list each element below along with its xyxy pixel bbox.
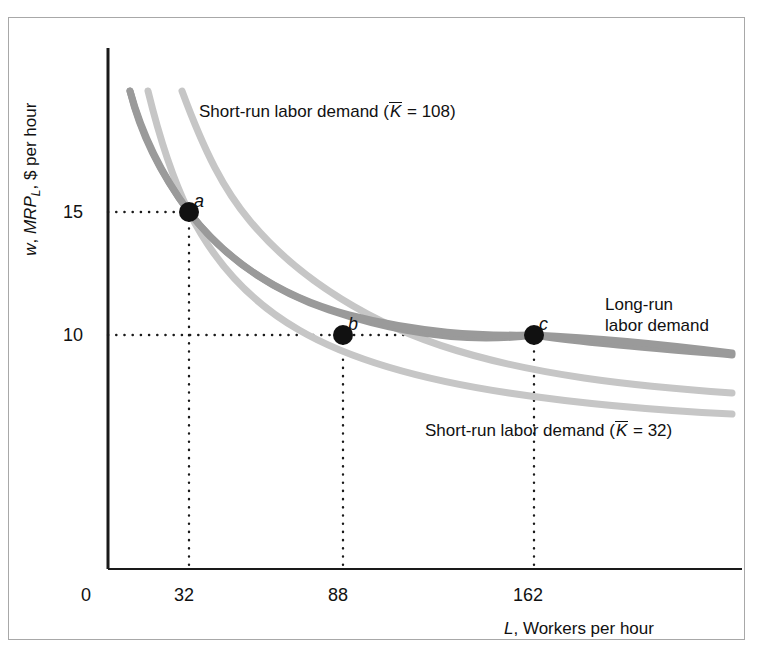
label-long-run-line1: Long-run: [605, 295, 709, 316]
y-axis-mrp: MRP: [21, 196, 40, 234]
label-sr108-post: = 108): [402, 102, 455, 121]
label-sr108-pre: Short-run labor demand (: [199, 102, 389, 121]
y-axis-title: w, MRPL, $ per hour: [21, 74, 43, 284]
y-axis-w: w: [21, 243, 40, 255]
curve-short-run-32: [148, 91, 732, 414]
label-long-run-line2: labor demand: [605, 316, 709, 337]
point-label-b: b: [348, 314, 358, 335]
label-sr108-kbar: K: [389, 102, 402, 120]
label-sr32-kbar: K: [615, 421, 628, 439]
x-tick-88: 88: [328, 585, 348, 606]
x-axis-units: , Workers per hour: [513, 619, 653, 638]
guide-lines: [108, 212, 535, 569]
label-short-run-32: Short-run labor demand (K = 32): [425, 421, 672, 442]
y-axis-units: , $ per hour: [21, 103, 40, 190]
x-tick-32: 32: [174, 585, 194, 606]
label-sr32-post: = 32): [628, 421, 672, 440]
x-axis-title: L, Workers per hour: [504, 619, 654, 639]
label-short-run-108: Short-run labor demand (K = 108): [199, 102, 456, 123]
point-label-a: a: [194, 191, 204, 212]
label-sr32-pre: Short-run labor demand (: [425, 421, 615, 440]
figure-root: w, MRPL, $ per hour L, Workers per hour …: [0, 0, 765, 660]
y-axis-comma: ,: [21, 234, 40, 243]
label-long-run: Long-run labor demand: [605, 295, 709, 336]
x-tick-0: 0: [81, 585, 91, 606]
x-tick-162: 162: [513, 585, 543, 606]
figure-frame: w, MRPL, $ per hour L, Workers per hour …: [8, 17, 745, 640]
point-label-c: c: [539, 314, 548, 335]
y-tick-15: 15: [63, 202, 83, 223]
y-tick-10: 10: [63, 325, 83, 346]
y-axis-mrp-subscript: L: [29, 190, 43, 197]
